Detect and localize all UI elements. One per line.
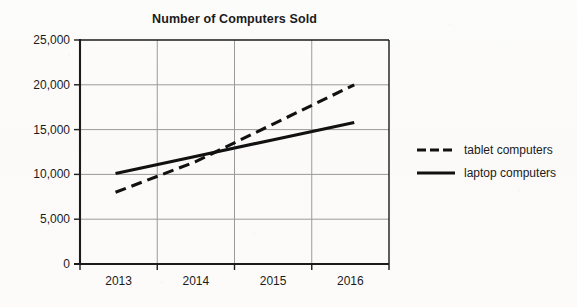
chart-legend: tablet computers laptop computers: [417, 138, 567, 184]
chart-figure: Number of Computers Sold 05,00010,00015,…: [0, 0, 577, 307]
y-tick-label: 10,000: [33, 167, 70, 181]
solid-line-icon: [417, 167, 455, 179]
x-tick-label: 2014: [183, 274, 210, 288]
y-tick-label: 0: [63, 257, 70, 271]
y-tick-label: 20,000: [33, 78, 70, 92]
legend-label-tablet-computers: tablet computers: [464, 143, 553, 157]
dashed-line-icon: [417, 144, 455, 156]
x-tick-label: 2016: [337, 274, 364, 288]
x-tick-label: 2013: [105, 274, 132, 288]
legend-item-tablet-computers: tablet computers: [417, 138, 567, 161]
y-tick-label: 25,000: [33, 33, 70, 47]
y-tick-label: 15,000: [33, 123, 70, 137]
y-tick-label: 5,000: [40, 212, 70, 226]
x-tick-label: 2015: [260, 274, 287, 288]
legend-label-laptop-computers: laptop computers: [464, 166, 556, 180]
legend-item-laptop-computers: laptop computers: [417, 161, 567, 184]
